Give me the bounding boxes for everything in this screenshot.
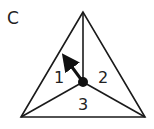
region-label-1: 1 <box>54 68 64 87</box>
diagram-panel: C 1 2 3 <box>0 0 154 129</box>
edge-center-bottom-left <box>21 82 83 117</box>
region-label-2: 2 <box>98 68 108 87</box>
center-dot <box>78 77 88 87</box>
edge-center-bottom-right <box>83 82 145 117</box>
triangle-diagram: 1 2 3 <box>0 0 154 129</box>
region-label-3: 3 <box>78 95 88 114</box>
